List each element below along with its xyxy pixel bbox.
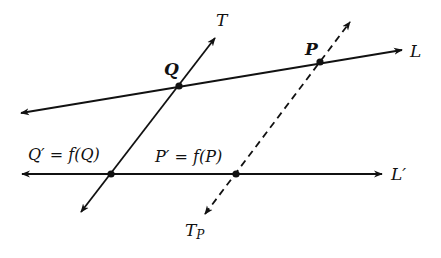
line-L (21, 50, 402, 113)
point-Q-prime (107, 170, 114, 177)
label-T: T (216, 10, 229, 30)
point-P (316, 58, 323, 65)
label-P-prime: P′ = f(P) (154, 147, 222, 166)
line-T-P (205, 22, 350, 214)
label-T-P-sub: P (195, 228, 205, 242)
point-P-prime (232, 170, 239, 177)
diagram-canvas: T Q P L Q′ = f(Q) P′ = f(P) L′ TP (0, 0, 441, 258)
diagram-svg: T Q P L Q′ = f(Q) P′ = f(P) L′ TP (0, 0, 441, 258)
line-T (81, 38, 215, 212)
point-Q (175, 82, 182, 89)
label-Q: Q (164, 59, 179, 79)
label-L-prime: L′ (390, 164, 406, 184)
label-T-P: TP (185, 220, 205, 242)
label-P: P (304, 39, 319, 59)
label-L: L (409, 41, 421, 61)
label-Q-prime: Q′ = f(Q) (28, 145, 100, 164)
